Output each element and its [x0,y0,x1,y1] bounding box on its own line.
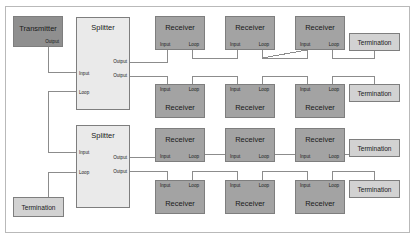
receiver-port-loop: Loop [329,183,339,188]
receiver-port-input: Input [300,42,310,47]
receiver-label: Receiver [156,199,204,208]
node-receiver-r1-c2[interactable]: Receiver Input Loop [225,16,275,50]
node-receiver-r4-c1[interactable]: Input Loop Receiver [155,180,205,214]
splitter-bottom-port-output-2: Output [113,169,127,174]
receiver-label: Receiver [226,23,274,32]
receiver-label: Receiver [296,199,344,208]
receiver-port-loop: Loop [329,42,339,47]
node-termination-row2[interactable]: Termination [349,84,400,102]
receiver-port-loop: Loop [329,87,339,92]
receiver-port-loop: Loop [259,87,269,92]
splitter-top-port-input: Input [79,71,89,76]
splitter-top-port-output-1: Output [113,59,127,64]
receiver-label: Receiver [156,23,204,32]
node-splitter-top[interactable]: Splitter Output Output Input Loop [76,17,130,110]
node-receiver-r3-c2[interactable]: Receiver Input Loop [225,128,275,162]
node-termination-row1[interactable]: Termination [349,33,400,51]
diagram-canvas: Transmitter Output Splitter Output Outpu… [0,0,418,243]
splitter-bottom-port-input: Input [79,150,89,155]
termination-label: Termination [350,145,399,152]
receiver-port-loop: Loop [329,154,339,159]
splitter-top-label: Splitter [77,23,129,32]
receiver-label: Receiver [226,135,274,144]
receiver-port-input: Input [160,87,170,92]
node-receiver-r2-c3[interactable]: Input Loop Receiver [295,84,345,118]
node-termination-row3[interactable]: Termination [349,139,400,157]
node-receiver-r4-c2[interactable]: Input Loop Receiver [225,180,275,214]
receiver-port-input: Input [160,183,170,188]
splitter-top-port-output-2: Output [113,73,127,78]
receiver-label: Receiver [296,135,344,144]
receiver-port-input: Input [300,183,310,188]
termination-label: Termination [350,90,399,97]
receiver-port-loop: Loop [189,183,199,188]
receiver-label: Receiver [226,103,274,112]
receiver-port-loop: Loop [259,154,269,159]
node-receiver-r2-c1[interactable]: Input Loop Receiver [155,84,205,118]
receiver-label: Receiver [296,23,344,32]
receiver-label: Receiver [296,103,344,112]
node-transmitter[interactable]: Transmitter Output [13,16,63,47]
splitter-bottom-port-loop: Loop [79,170,89,175]
receiver-port-input: Input [230,154,240,159]
receiver-label: Receiver [226,199,274,208]
node-receiver-r3-c3[interactable]: Receiver Input Loop [295,128,345,162]
node-receiver-r4-c3[interactable]: Input Loop Receiver [295,180,345,214]
termination-label: Termination [14,204,63,211]
receiver-port-input: Input [160,42,170,47]
receiver-port-input: Input [230,42,240,47]
splitter-bottom-label: Splitter [77,131,129,140]
transmitter-label: Transmitter [14,24,62,33]
receiver-port-loop: Loop [189,154,199,159]
receiver-port-loop: Loop [259,42,269,47]
receiver-label: Receiver [156,103,204,112]
receiver-port-loop: Loop [189,42,199,47]
node-termination-splitter-loop[interactable]: Termination [13,197,64,217]
node-termination-row4[interactable]: Termination [349,180,400,198]
splitter-top-port-loop: Loop [79,90,89,95]
node-receiver-r3-c1[interactable]: Receiver Input Loop [155,128,205,162]
receiver-port-input: Input [160,154,170,159]
receiver-port-loop: Loop [259,183,269,188]
transmitter-port-output: Output [45,39,59,44]
receiver-port-input: Input [300,87,310,92]
receiver-port-input: Input [230,87,240,92]
receiver-label: Receiver [156,135,204,144]
receiver-port-input: Input [300,154,310,159]
node-splitter-bottom[interactable]: Splitter Input Loop Output Output [76,125,130,208]
splitter-bottom-port-output-1: Output [113,155,127,160]
node-receiver-r1-c3[interactable]: Receiver Input Loop [295,16,345,50]
termination-label: Termination [350,186,399,193]
node-receiver-r1-c1[interactable]: Receiver Input Loop [155,16,205,50]
receiver-port-loop: Loop [189,87,199,92]
node-receiver-r2-c2[interactable]: Input Loop Receiver [225,84,275,118]
receiver-port-input: Input [230,183,240,188]
termination-label: Termination [350,39,399,46]
